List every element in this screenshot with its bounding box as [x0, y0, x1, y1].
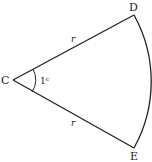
point-label-c: C	[1, 74, 9, 87]
arc-de	[134, 15, 151, 148]
angle-marker	[32, 69, 36, 92]
radius-label-upper: r	[71, 34, 76, 44]
angle-label: 1c	[40, 75, 50, 86]
radius-ce	[13, 80, 134, 148]
point-label-e: E	[130, 150, 138, 162]
sector-diagram: C D E r r 1c	[0, 0, 152, 162]
angle-unit: c	[46, 75, 50, 82]
radius-cd	[13, 15, 134, 80]
point-label-d: D	[129, 1, 138, 14]
radius-label-lower: r	[71, 118, 76, 128]
